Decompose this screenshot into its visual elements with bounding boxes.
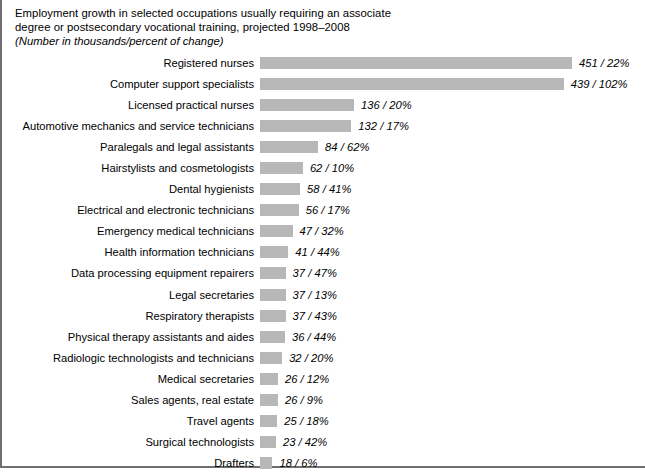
bar-category-label: Travel agents [2,415,254,427]
bar-row: Radiologic technologists and technicians… [2,347,645,368]
bar-category-label: Computer support specialists [2,78,254,90]
bar-value-label: 37 / 13% [293,289,337,301]
bar-category-label: Registered nurses [2,57,254,69]
bar-and-value: 36 / 44% [260,326,336,347]
bar-and-value: 37 / 47% [260,263,337,284]
bar-category-label: Sales agents, real estate [2,394,254,406]
bar [260,78,564,90]
bar-category-label: Paralegals and legal assistants [2,141,254,153]
bar-and-value: 37 / 13% [260,284,337,305]
bar-row: Travel agents25 / 18% [2,411,645,432]
bar [260,373,278,385]
bar-value-label: 56 / 17% [306,204,350,216]
bar-value-label: 26 / 12% [285,373,329,385]
bar-row: Registered nurses451 / 22% [2,52,645,73]
bar-and-value: 32 / 20% [260,347,333,368]
bar [260,331,285,343]
bar-category-label: Automotive mechanics and service technic… [2,120,254,132]
bar [260,120,351,132]
bar-chart-plot-area: Registered nurses451 / 22%Computer suppo… [2,52,645,473]
bar-row: Medical secretaries26 / 12% [2,368,645,389]
bar-category-label: Electrical and electronic technicians [2,204,254,216]
bar-value-label: 47 / 32% [300,225,344,237]
bar-category-label: Data processing equipment repairers [2,267,254,279]
bar-category-label: Radiologic technologists and technicians [2,352,254,364]
bar-category-label: Medical secretaries [2,373,254,385]
bar-category-label: Surgical technologists [2,436,254,448]
bar-row: Dental hygienists58 / 41% [2,179,645,200]
bar-and-value: 25 / 18% [260,411,329,432]
bar [260,246,288,258]
bar-value-label: 25 / 18% [284,415,328,427]
bar-value-label: 18 / 6% [279,457,317,469]
chart-title-line-2: degree or postsecondary vocational train… [15,20,595,34]
bar [260,394,278,406]
bar [260,415,277,427]
bar-row: Computer support specialists439 / 102% [2,73,645,94]
bar-value-label: 451 / 22% [579,57,630,69]
bar [260,57,572,69]
bar [260,457,272,469]
bar-and-value: 41 / 44% [260,242,340,263]
bar-value-label: 136 / 20% [361,99,412,111]
bar-value-label: 26 / 9% [285,394,323,406]
bar-and-value: 18 / 6% [260,453,318,473]
bar-value-label: 36 / 44% [292,331,336,343]
bar-category-label: Health information technicians [2,246,254,258]
bar-category-label: Hairstylists and cosmetologists [2,162,254,174]
bar [260,162,303,174]
bar-value-label: 32 / 20% [289,352,333,364]
bar-and-value: 439 / 102% [260,73,627,94]
bar [260,183,300,195]
bar [260,352,282,364]
chart-heading: Employment growth in selected occupation… [15,6,595,48]
bar-row: Electrical and electronic technicians56 … [2,200,645,221]
bar-and-value: 26 / 9% [260,390,323,411]
bar-and-value: 136 / 20% [260,94,412,115]
bar-row: Paralegals and legal assistants84 / 62% [2,136,645,157]
bar-row: Surgical technologists23 / 42% [2,432,645,453]
bar-value-label: 62 / 10% [310,162,354,174]
bar-value-label: 439 / 102% [571,78,628,90]
bar [260,289,286,301]
bar-category-label: Emergency medical technicians [2,225,254,237]
bar-and-value: 451 / 22% [260,52,630,73]
bar-category-label: Respiratory therapists [2,310,254,322]
bar-row: Emergency medical technicians47 / 32% [2,221,645,242]
bar [260,267,286,279]
bar-and-value: 26 / 12% [260,368,329,389]
bar-value-label: 23 / 42% [283,436,327,448]
bar-and-value: 23 / 42% [260,432,327,453]
bar-and-value: 84 / 62% [260,136,369,157]
bar-category-label: Licensed practical nurses [2,99,254,111]
bar-category-label: Legal secretaries [2,289,254,301]
bar-row: Hairstylists and cosmetologists62 / 10% [2,157,645,178]
bar-row: Physical therapy assistants and aides36 … [2,326,645,347]
bar-and-value: 62 / 10% [260,157,354,178]
bar-and-value: 132 / 17% [260,115,409,136]
bar-and-value: 58 / 41% [260,179,351,200]
bar [260,436,276,448]
bar-value-label: 84 / 62% [325,141,369,153]
bar-row: Health information technicians41 / 44% [2,242,645,263]
bar-row: Licensed practical nurses136 / 20% [2,94,645,115]
bar [260,141,318,153]
bar [260,99,354,111]
bar-category-label: Physical therapy assistants and aides [2,331,254,343]
chart-title-line-1: Employment growth in selected occupation… [15,6,595,20]
bar [260,225,293,237]
bar-category-label: Drafters [2,457,254,469]
bar-value-label: 37 / 43% [293,310,337,322]
bar-value-label: 58 / 41% [307,183,351,195]
bar-and-value: 56 / 17% [260,200,350,221]
bar-category-label: Dental hygienists [2,183,254,195]
bar-row: Drafters18 / 6% [2,453,645,473]
bar-value-label: 132 / 17% [358,120,409,132]
bar-row: Legal secretaries37 / 13% [2,284,645,305]
bar-row: Automotive mechanics and service technic… [2,115,645,136]
chart-subtitle: (Number in thousands/percent of change) [15,34,595,48]
bar-row: Data processing equipment repairers37 / … [2,263,645,284]
bar-value-label: 41 / 44% [295,246,339,258]
bar [260,204,299,216]
